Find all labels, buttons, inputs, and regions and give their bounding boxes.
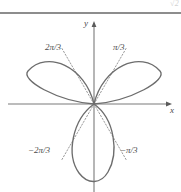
guide-ray-2pi-3 bbox=[62, 48, 95, 104]
guide-ray-pi-3 bbox=[94, 48, 127, 104]
petal-pi-over-3 bbox=[94, 62, 161, 104]
guide-ray-neg-2pi-3 bbox=[62, 104, 95, 160]
angle-label-2pi-over-3: 2π/3 bbox=[45, 43, 61, 52]
petal-2pi-over-3 bbox=[27, 62, 94, 104]
angle-label-pi-over-3: π/3 bbox=[113, 43, 125, 52]
petal-bottom bbox=[72, 104, 114, 182]
angle-label-neg-2pi-over-3: −2π/3 bbox=[28, 146, 50, 155]
x-axis-label: x bbox=[170, 106, 174, 115]
y-axis-arrowhead bbox=[92, 21, 97, 27]
rose-curve-plot bbox=[0, 0, 181, 192]
polar-rose-figure: √2 2π/3 π/3 −2π/3 − bbox=[0, 0, 181, 192]
y-axis-label: y bbox=[84, 19, 88, 28]
angle-label-neg-pi-over-3: −π/3 bbox=[120, 146, 138, 155]
